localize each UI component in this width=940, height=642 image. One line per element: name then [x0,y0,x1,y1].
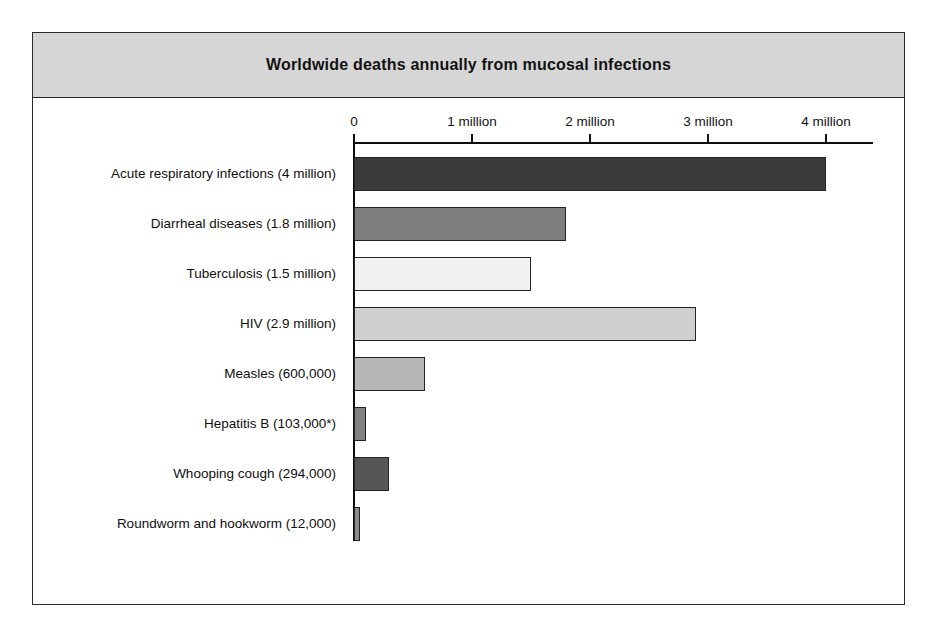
bar-row: Whooping cough (294,000) [33,457,904,491]
x-axis-tick-mark [589,134,591,142]
bar [354,257,531,291]
bar-category-label: Acute respiratory infections (4 million) [46,157,346,191]
bar-category-label: Diarrheal diseases (1.8 million) [46,207,346,241]
bar [354,407,366,441]
bar-row: Acute respiratory infections (4 million) [33,157,904,191]
bar [354,357,425,391]
x-axis-tick-mark [707,134,709,142]
x-axis-tick-mark [471,134,473,142]
bar-row: Roundworm and hookworm (12,000) [33,507,904,541]
plot-area: 01 million2 million3 million4 million Ac… [33,98,904,604]
x-axis-tick-label: 1 million [447,114,497,129]
x-axis-line [353,142,873,144]
bar [354,457,389,491]
x-axis-tick-label: 3 million [683,114,733,129]
bar-category-label: Roundworm and hookworm (12,000) [46,507,346,541]
chart-title-band: Worldwide deaths annually from mucosal i… [33,33,904,98]
bar-category-label: Whooping cough (294,000) [46,457,346,491]
bar-row: Tuberculosis (1.5 million) [33,257,904,291]
bar-category-label: HIV (2.9 million) [46,307,346,341]
bar-category-label: Measles (600,000) [46,357,346,391]
x-axis-tick-label: 4 million [801,114,851,129]
chart-title: Worldwide deaths annually from mucosal i… [266,56,671,74]
x-axis-tick-mark [825,134,827,142]
chart-figure: Worldwide deaths annually from mucosal i… [32,32,905,605]
bar [354,307,696,341]
bar-category-label: Hepatitis B (103,000*) [46,407,346,441]
bar [354,157,826,191]
bar [354,507,360,541]
bar-row: Hepatitis B (103,000*) [33,407,904,441]
x-axis-tick-label: 0 [350,114,358,129]
bar-row: HIV (2.9 million) [33,307,904,341]
bar-row: Measles (600,000) [33,357,904,391]
bar [354,207,566,241]
x-axis-tick-label: 2 million [565,114,615,129]
bar-row: Diarrheal diseases (1.8 million) [33,207,904,241]
bar-category-label: Tuberculosis (1.5 million) [46,257,346,291]
